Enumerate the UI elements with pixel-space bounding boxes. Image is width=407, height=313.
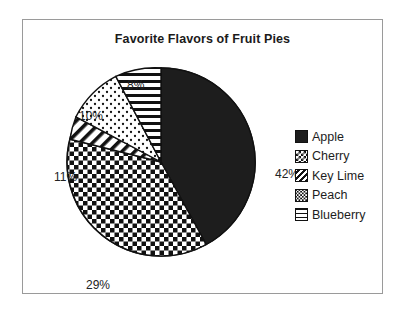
pie-svg	[65, 66, 257, 258]
legend-swatch-cherry-icon	[295, 150, 308, 163]
legend-item-cherry[interactable]: Cherry	[295, 147, 391, 167]
legend-label-apple: Apple	[312, 131, 344, 144]
pie-label-blueberry: 8%	[127, 78, 144, 92]
legend-swatch-key-lime-icon	[295, 169, 308, 182]
legend-item-apple[interactable]: Apple	[295, 127, 391, 147]
pie-label-peach: 10%	[79, 109, 103, 123]
legend-label-key-lime: Key Lime	[312, 170, 364, 183]
chart-frame: Favorite Flavors of Fruit Pies	[22, 19, 383, 294]
legend-swatch-peach-icon	[295, 189, 308, 202]
legend-label-blueberry: Blueberry	[312, 209, 366, 222]
legend-item-blueberry[interactable]: Blueberry	[295, 205, 391, 225]
chart-title: Favorite Flavors of Fruit Pies	[23, 32, 382, 46]
chart-legend: Apple Cherry Key Lime Peach Blueberry	[295, 127, 391, 225]
legend-item-peach[interactable]: Peach	[295, 186, 391, 206]
pie-label-cherry: 29%	[86, 278, 110, 292]
legend-item-key-lime[interactable]: Key Lime	[295, 166, 391, 186]
legend-swatch-blueberry-icon	[295, 208, 308, 221]
pie-chart	[65, 66, 257, 258]
legend-label-peach: Peach	[312, 189, 347, 202]
pie-label-key-lime: 11%	[54, 170, 77, 184]
legend-label-cherry: Cherry	[312, 150, 350, 163]
legend-swatch-apple-icon	[295, 130, 308, 143]
